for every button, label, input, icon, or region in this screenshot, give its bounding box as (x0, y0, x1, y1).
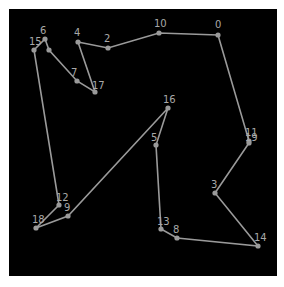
node-label-0: 0 (215, 19, 221, 30)
node-label-15: 15 (29, 36, 42, 47)
node-13 (158, 226, 163, 231)
node-16 (165, 105, 170, 110)
route-plot: 01024177615121891651381431119 (0, 0, 284, 287)
node-18 (33, 225, 38, 230)
node-u (46, 47, 51, 52)
node-3 (212, 190, 217, 195)
node-label-5: 5 (151, 132, 157, 143)
node-label-13: 13 (157, 216, 170, 227)
node-label-6: 6 (40, 25, 46, 36)
node-label-9: 9 (64, 202, 70, 213)
node-2 (105, 45, 110, 50)
node-label-14: 14 (254, 232, 267, 243)
node-9 (65, 213, 70, 218)
node-6 (42, 36, 47, 41)
node-label-19: 19 (245, 132, 258, 143)
node-label-8: 8 (173, 224, 179, 235)
node-10 (156, 30, 161, 35)
node-7 (74, 78, 79, 83)
node-15 (31, 47, 36, 52)
node-4 (75, 39, 80, 44)
node-8 (174, 235, 179, 240)
node-label-10: 10 (154, 18, 167, 29)
node-5 (153, 142, 158, 147)
node-14 (255, 243, 260, 248)
node-label-18: 18 (32, 214, 45, 225)
node-12 (56, 202, 61, 207)
node-label-17: 17 (92, 80, 105, 91)
node-label-16: 16 (163, 94, 176, 105)
node-label-2: 2 (104, 33, 110, 44)
node-0 (215, 32, 220, 37)
node-label-7: 7 (71, 67, 77, 78)
node-label-3: 3 (211, 179, 217, 190)
node-label-4: 4 (74, 27, 80, 38)
